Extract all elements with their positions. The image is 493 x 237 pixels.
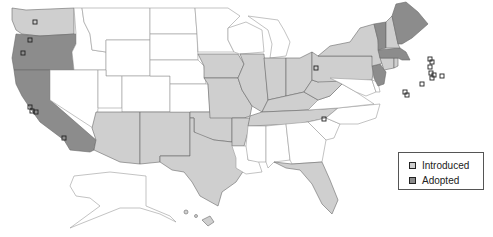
marker-ny-3[interactable]: [428, 65, 432, 69]
state-washington[interactable]: [12, 8, 74, 36]
legend-item-introduced: Introduced: [409, 158, 469, 172]
state-north-dakota[interactable]: [150, 8, 197, 34]
state-arizona[interactable]: [92, 112, 140, 164]
state-iowa[interactable]: [198, 54, 244, 78]
state-hawaii-island: [184, 210, 188, 214]
legend-item-adopted: Adopted: [409, 173, 459, 187]
state-florida[interactable]: [274, 162, 338, 214]
legend-swatch-adopted: [409, 177, 416, 184]
state-pennsylvania[interactable]: [312, 52, 374, 82]
state-hawaii[interactable]: [202, 216, 214, 226]
legend-label-adopted: Adopted: [422, 175, 459, 186]
state-colorado[interactable]: [122, 76, 170, 112]
state-alaska[interactable]: [70, 172, 176, 228]
legend-label-introduced: Introduced: [422, 160, 469, 171]
marker-nj[interactable]: [420, 82, 424, 86]
state-indiana[interactable]: [264, 58, 286, 100]
state-south-dakota[interactable]: [150, 34, 198, 60]
state-mississippi[interactable]: [246, 126, 266, 162]
us-states-map: [0, 0, 493, 237]
marker-ct[interactable]: [440, 74, 444, 78]
legend-swatch-introduced: [409, 162, 416, 169]
map-legend: Introduced Adopted: [398, 152, 484, 190]
state-oregon[interactable]: [12, 34, 76, 70]
state-kansas[interactable]: [170, 84, 210, 112]
state-maine[interactable]: [392, 2, 428, 44]
state-utah[interactable]: [98, 70, 122, 108]
state-massachusetts[interactable]: [378, 48, 410, 60]
state-wyoming[interactable]: [106, 40, 150, 76]
state-rhode-island[interactable]: [394, 58, 398, 68]
state-hawaii-island: [195, 215, 198, 218]
state-wisconsin[interactable]: [228, 22, 264, 54]
state-alabama[interactable]: [266, 124, 290, 168]
